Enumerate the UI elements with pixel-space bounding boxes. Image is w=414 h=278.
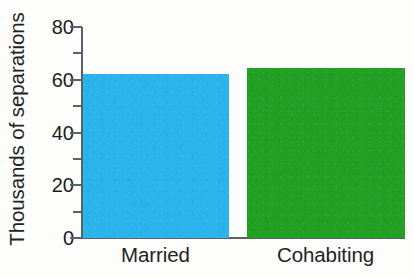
y-tick-label-0: 0 xyxy=(32,228,74,248)
plot-area xyxy=(83,27,405,238)
y-tick-minor-50 xyxy=(73,105,82,107)
y-tick-minor-70 xyxy=(73,52,82,54)
y-tick-label-80: 80 xyxy=(32,17,74,37)
y-tick-major-20 xyxy=(70,184,82,186)
bar-texture xyxy=(83,74,229,238)
y-tick-major-60 xyxy=(70,79,82,81)
y-tick-label-20: 20 xyxy=(32,175,74,195)
bar-texture xyxy=(247,68,405,238)
y-tick-label-40: 40 xyxy=(32,123,74,143)
x-label-married: Married xyxy=(82,243,229,267)
y-tick-major-40 xyxy=(70,132,82,134)
y-tick-major-0 xyxy=(70,237,82,239)
bar-chart: Thousands of separations 80 60 40 20 0 M… xyxy=(0,0,414,278)
y-axis-tick-labels: 80 60 40 20 0 xyxy=(32,0,74,278)
bar-married xyxy=(83,74,229,238)
y-tick-major-80 xyxy=(70,26,82,28)
y-tick-minor-10 xyxy=(73,211,82,213)
y-axis-title: Thousands of separations xyxy=(0,0,34,258)
bar-cohabiting xyxy=(247,68,405,238)
x-label-cohabiting: Cohabiting xyxy=(246,243,405,267)
y-tick-label-60: 60 xyxy=(32,70,74,90)
y-tick-minor-30 xyxy=(73,158,82,160)
